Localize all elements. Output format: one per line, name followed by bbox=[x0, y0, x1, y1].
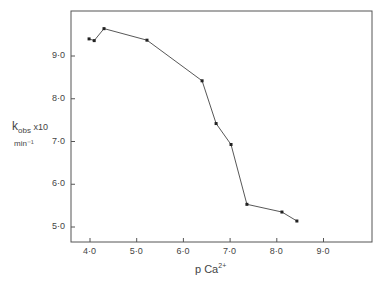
y-axis-ticks bbox=[71, 56, 75, 227]
plot-frame bbox=[71, 11, 372, 242]
x-axis-label: p Ca2+ bbox=[195, 262, 226, 275]
data-point bbox=[230, 143, 233, 146]
x-tick-label: 8·0 bbox=[270, 246, 283, 256]
x-axis-ticks bbox=[90, 238, 324, 242]
y-tick-label: 7·0 bbox=[52, 136, 65, 146]
data-point bbox=[201, 79, 204, 82]
y-tick-label: 8·0 bbox=[52, 93, 65, 103]
data-point bbox=[295, 220, 298, 223]
data-point bbox=[103, 27, 106, 30]
y-axis-label-unit: min⁻¹ bbox=[14, 137, 48, 150]
data-point bbox=[280, 211, 283, 214]
y-axis-label-sub: obs bbox=[18, 126, 31, 135]
x-axis-label-sup: 2+ bbox=[218, 262, 226, 269]
x-tick-label: 9·0 bbox=[317, 246, 330, 256]
x-tick-label: 7·0 bbox=[223, 246, 236, 256]
y-axis-label: kobs x10 min⁻¹ bbox=[12, 120, 48, 150]
y-tick-label: 5·0 bbox=[52, 221, 65, 231]
x-axis-label-main: p Ca bbox=[195, 263, 218, 275]
y-tick-label: 6·0 bbox=[52, 178, 65, 188]
y-tick-label: 9·0 bbox=[52, 50, 65, 60]
data-point bbox=[88, 37, 91, 40]
data-points bbox=[88, 27, 299, 222]
x-tick-label: 6·0 bbox=[176, 246, 189, 256]
data-point bbox=[215, 122, 218, 125]
y-axis-label-multiplier: x10 bbox=[31, 122, 48, 132]
data-point bbox=[245, 203, 248, 206]
data-point bbox=[145, 39, 148, 42]
data-line bbox=[89, 29, 297, 221]
x-tick-label: 5·0 bbox=[130, 246, 143, 256]
data-point bbox=[93, 39, 96, 42]
x-tick-label: 4·0 bbox=[83, 246, 96, 256]
